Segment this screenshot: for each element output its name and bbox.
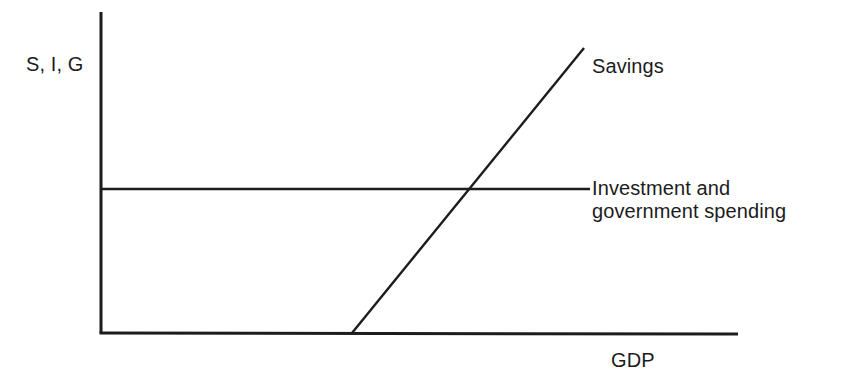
savings-series-label: Savings bbox=[592, 55, 664, 78]
chart-figure: S, I, G Savings Investment andgovernment… bbox=[0, 0, 852, 383]
investment-label-line-2: government spending bbox=[592, 200, 786, 222]
savings-line bbox=[352, 48, 584, 333]
x-axis-label: GDP bbox=[611, 349, 655, 372]
investment-government-spending-series-label: Investment andgovernment spending bbox=[592, 177, 842, 223]
y-axis-label: S, I, G bbox=[26, 53, 83, 76]
investment-label-line-1: Investment and bbox=[592, 177, 730, 199]
x-axis-line bbox=[100, 333, 739, 334]
